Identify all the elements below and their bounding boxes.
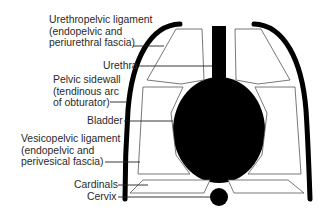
cervix — [210, 188, 228, 206]
label-line: Urethropelvic ligament — [49, 14, 152, 26]
label-line: (endopelvic and — [49, 26, 152, 38]
label-line: perivesical fascia) — [21, 156, 120, 168]
right-cardinal-panel — [228, 180, 304, 193]
bladder — [173, 77, 265, 183]
label-urethropelvic-ligament: Urethropelvic ligament (endopelvic and p… — [49, 14, 152, 49]
label-urethra: Urethra — [103, 60, 138, 72]
label-line: (endopelvic and — [21, 145, 120, 157]
label-cervix: Cervix — [87, 191, 116, 203]
urethra — [212, 26, 226, 78]
label-line: periurethral fascia) — [49, 37, 152, 49]
label-bladder: Bladder — [87, 115, 123, 127]
label-pelvic-sidewall: Pelvic sidewall (tendinous arc of obtura… — [53, 74, 121, 109]
pelvic-anatomy-diagram: Urethropelvic ligament (endopelvic and p… — [0, 0, 332, 213]
label-line: of obturator) — [53, 97, 121, 109]
label-line: Pelvic sidewall — [53, 74, 121, 86]
label-line: (tendinous arc — [53, 86, 121, 98]
label-cardinals: Cardinals — [74, 179, 118, 191]
label-line: Vesicopelvic ligament — [21, 133, 120, 145]
label-vesicopelvic-ligament: Vesicopelvic ligament (endopelvic and pe… — [21, 133, 120, 168]
left-cardinal-panel — [130, 180, 210, 193]
